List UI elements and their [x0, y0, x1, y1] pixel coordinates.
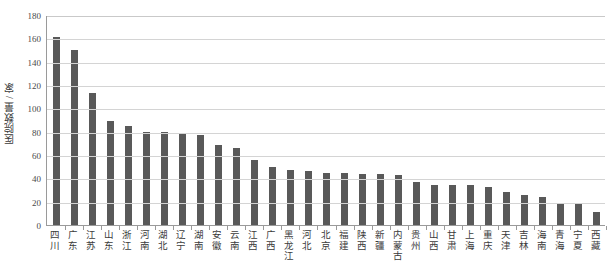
- x-axis-tick-label: 青海: [553, 230, 567, 251]
- y-axis-tick-label: 100: [28, 104, 42, 114]
- gridline: [47, 156, 605, 157]
- bar: [503, 192, 510, 225]
- bar: [71, 50, 78, 225]
- y-axis-tick-label: 0: [37, 221, 42, 231]
- bar: [395, 175, 402, 225]
- x-axis-tick-label: 湖北: [156, 230, 170, 251]
- gridline: [47, 203, 605, 204]
- x-axis-tick-label: 四川: [48, 230, 62, 251]
- x-axis-tick-label: 甘肃: [445, 230, 459, 251]
- y-axis-tick-label: 60: [32, 151, 41, 161]
- x-axis-tick-label: 江西: [246, 230, 260, 251]
- x-axis-tick-label: 山东: [102, 230, 116, 251]
- y-axis-title: 医院数量 / 家: [0, 0, 18, 226]
- bar: [359, 174, 366, 225]
- gridline: [47, 63, 605, 64]
- x-axis-tick-label: 贵州: [409, 230, 423, 251]
- gridline: [47, 133, 605, 134]
- x-axis-tick-label: 天津: [499, 230, 513, 251]
- bar: [539, 197, 546, 225]
- y-axis-tick-label: 180: [28, 11, 42, 21]
- x-axis-tick-label: 安徽: [210, 230, 224, 251]
- x-axis-tick-label: 北京: [319, 230, 333, 251]
- x-axis-tick-label: 河北: [300, 230, 314, 251]
- bar: [467, 185, 474, 225]
- bar: [557, 203, 564, 225]
- x-axis-tick-label: 山西: [427, 230, 441, 251]
- y-axis-tick-label: 80: [32, 128, 41, 138]
- x-axis-tick-label: 吉林: [517, 230, 531, 251]
- bar: [431, 185, 438, 225]
- bar: [125, 126, 132, 225]
- x-axis-tick-label: 福建: [337, 230, 351, 251]
- y-axis-tick-label: 120: [28, 81, 42, 91]
- gridline: [47, 86, 605, 87]
- bar: [323, 173, 330, 226]
- x-axis-tick-label: 新疆: [373, 230, 387, 251]
- plot-area: [46, 16, 605, 226]
- bar: [269, 167, 276, 225]
- bar: [341, 173, 348, 226]
- gridline: [47, 179, 605, 180]
- x-axis-tick-label: 黑龙江: [282, 230, 296, 262]
- x-axis-tick-label: 宁夏: [571, 230, 585, 251]
- y-axis-tick-label: 140: [28, 58, 42, 68]
- bar-chart: 医院数量 / 家 020406080100120140160180 四川广东江苏…: [0, 0, 612, 274]
- x-axis-tick-label: 广东: [66, 230, 80, 251]
- x-axis-tick-label: 湖南: [192, 230, 206, 251]
- x-axis-tick-label: 重庆: [481, 230, 495, 251]
- x-axis-tick-label: 内蒙古: [391, 230, 405, 262]
- bar-series: [47, 16, 605, 225]
- y-axis-tick-label: 40: [32, 174, 41, 184]
- x-axis-tick-label: 陕西: [355, 230, 369, 251]
- bar: [143, 132, 150, 225]
- bar: [53, 37, 60, 225]
- bar: [377, 174, 384, 225]
- bar: [161, 132, 168, 225]
- x-axis-tick-label: 河南: [138, 230, 152, 251]
- y-axis-tick-labels: 020406080100120140160180: [18, 16, 44, 226]
- x-axis-tick-label: 上海: [463, 230, 477, 251]
- x-axis-tick-label: 广西: [264, 230, 278, 251]
- x-axis-tick-label: 江苏: [84, 230, 98, 251]
- bar: [593, 212, 600, 225]
- bar: [233, 148, 240, 225]
- bar: [89, 93, 96, 225]
- x-axis-tick-label: 西藏: [589, 230, 603, 251]
- gridline: [47, 16, 605, 17]
- x-axis-tick-label: 辽宁: [174, 230, 188, 251]
- x-axis-tick-labels: 四川广东江苏山东浙江河南湖北辽宁湖南安徽云南江西广西黑龙江河北北京福建陕西新疆内…: [46, 230, 605, 274]
- x-axis-tick-mark: [606, 226, 607, 230]
- bar: [251, 160, 258, 225]
- bar: [485, 187, 492, 226]
- bar: [449, 185, 456, 225]
- x-axis-tick-label: 海南: [535, 230, 549, 251]
- y-axis-tick-label: 20: [32, 198, 41, 208]
- bar: [575, 204, 582, 225]
- x-axis-tick-label: 浙江: [120, 230, 134, 251]
- gridline: [47, 109, 605, 110]
- gridline: [47, 39, 605, 40]
- x-axis-tick-label: 云南: [228, 230, 242, 251]
- bar: [107, 121, 114, 225]
- bar: [521, 195, 528, 225]
- y-axis-tick-label: 160: [28, 34, 42, 44]
- y-axis-title-text: 医院数量 / 家: [4, 82, 15, 144]
